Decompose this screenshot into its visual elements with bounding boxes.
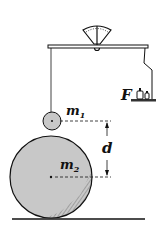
force-label: F bbox=[120, 86, 133, 104]
weights bbox=[137, 88, 149, 99]
balance-diagram: F m1 m2 d bbox=[0, 0, 167, 235]
mass1-label: m1 bbox=[66, 103, 85, 120]
distance-label: d bbox=[102, 139, 113, 157]
weight-pan bbox=[131, 99, 156, 102]
balance-beam bbox=[48, 45, 148, 48]
